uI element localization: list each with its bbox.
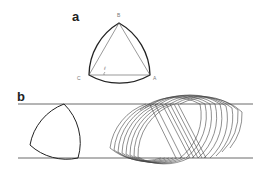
reuleaux-triangle-b [30,104,80,159]
rolling-sequence [110,95,242,164]
diagram-canvas [0,0,266,172]
reuleaux-triangle-a [89,23,150,83]
